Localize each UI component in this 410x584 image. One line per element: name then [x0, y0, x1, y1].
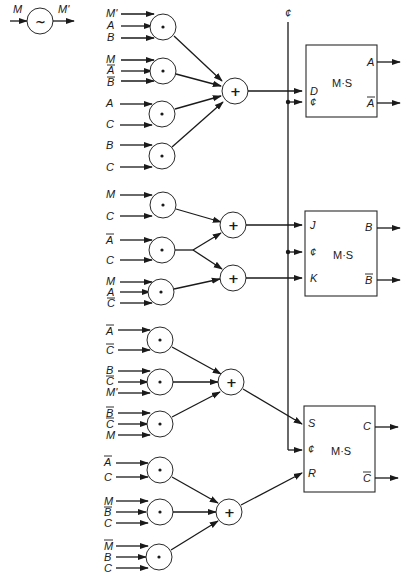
r-input-label: R [308, 467, 316, 479]
and-dot-icon [161, 69, 164, 72]
input-label: M [106, 429, 116, 441]
and-dot-icon [158, 422, 161, 425]
input-label: C [106, 254, 114, 266]
input-label: C [106, 210, 114, 222]
input-label: B [107, 31, 114, 43]
plus-icon: + [228, 271, 239, 286]
clock-line: ¢ [285, 7, 302, 450]
input-label: M' [106, 386, 118, 398]
clock-input-label: ¢ [310, 246, 316, 258]
input-label: A [105, 325, 113, 337]
plus-icon: + [226, 375, 237, 390]
flipflop-sr: M·S S ¢ R C C [304, 406, 398, 492]
and-dot-icon [159, 290, 162, 293]
and-dot-icon [158, 510, 161, 513]
input-label: C [106, 161, 114, 173]
flipflop-d: M·S D ¢ A A [306, 45, 400, 117]
input-label: A [105, 234, 113, 246]
q-bar-output-label: C [363, 472, 371, 484]
tilde-icon: ~ [35, 14, 46, 29]
and-gate: M B C [104, 540, 172, 574]
and-dot-icon [161, 25, 164, 28]
input-label: M [106, 188, 116, 200]
and-dot-icon [160, 154, 163, 157]
section-c: A C B C M' B C M [103, 325, 398, 574]
input-label: C [107, 297, 115, 309]
input-label: M' [106, 7, 118, 19]
section-a: M' A B M A B A C [105, 7, 400, 173]
plus-icon: + [228, 218, 239, 233]
and-gate: M C [106, 188, 176, 222]
input-label: C [106, 118, 114, 130]
input-label: A [105, 97, 113, 109]
s-input-label: S [308, 417, 316, 429]
and-gate: M A B [106, 53, 176, 88]
input-label: B [107, 76, 114, 88]
and-gate: A C [105, 97, 175, 130]
and-gate: A C [103, 456, 173, 483]
q-output-label: A [366, 56, 374, 68]
flipflop-label: M·S [331, 445, 351, 457]
plus-icon: + [230, 84, 241, 99]
and-gate: M B C [104, 495, 173, 529]
input-label: C [104, 471, 112, 483]
and-dot-icon [160, 248, 163, 251]
q-output-label: C [363, 420, 371, 432]
logic-circuit-diagram: M ~ M' ¢ M' A B M A [0, 0, 410, 584]
inverter-legend: M ~ M' [10, 3, 74, 34]
clock-label: ¢ [285, 7, 291, 19]
inverter-input-label: M [13, 3, 23, 15]
and-gate: A C [105, 234, 175, 266]
flipflop-label: M·S [332, 77, 352, 89]
clock-input-label: ¢ [308, 443, 314, 455]
and-gate: B C M [106, 407, 173, 441]
and-dot-icon [161, 203, 164, 206]
and-gate: B C [106, 139, 175, 173]
and-dot-icon [158, 380, 161, 383]
q-bar-output-label: B [365, 274, 372, 286]
and-dot-icon [158, 338, 161, 341]
j-input-label: J [309, 219, 316, 231]
input-label: C [104, 562, 112, 574]
and-dot-icon [157, 555, 160, 558]
flipflop-jk: M·S J ¢ K B B [305, 211, 400, 296]
flipflop-label: M·S [333, 249, 353, 261]
input-label: A [106, 19, 114, 31]
input-label: A [103, 456, 111, 468]
and-dot-icon [160, 112, 163, 115]
input-label: C [106, 344, 114, 356]
plus-icon: + [224, 505, 235, 520]
k-input-label: K [310, 272, 318, 284]
and-gate: M' A B [106, 7, 176, 43]
inverter-output-label: M' [58, 3, 70, 15]
and-gate: A C [105, 325, 173, 356]
input-label: C [104, 517, 112, 529]
input-label: A [106, 64, 114, 76]
q-bar-output-label: A [366, 97, 374, 109]
section-b: M C A C M A C [105, 188, 400, 309]
and-gate: M A C [106, 275, 174, 309]
input-label: B [106, 139, 113, 151]
and-gate: B C M' [106, 364, 173, 398]
q-output-label: B [365, 221, 372, 233]
and-dot-icon [158, 468, 161, 471]
clock-input-label: ¢ [310, 96, 316, 108]
